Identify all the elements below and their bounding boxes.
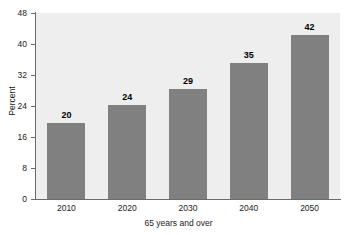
y-axis-tick bbox=[31, 75, 35, 76]
bars-container: 2024293542 bbox=[36, 13, 340, 199]
y-axis-tick-label: 8 bbox=[3, 163, 27, 173]
bar bbox=[291, 35, 329, 199]
bar-value-label: 24 bbox=[108, 92, 146, 102]
bar bbox=[169, 89, 207, 199]
y-axis-tick-label: 40 bbox=[3, 39, 27, 49]
y-axis-line bbox=[35, 12, 36, 200]
y-axis-tick bbox=[31, 44, 35, 45]
bar-chart: 2024293542 081624324048 Percent 20102020… bbox=[0, 0, 357, 235]
y-axis-tick bbox=[31, 137, 35, 138]
x-axis-title: 65 years and over bbox=[0, 218, 357, 228]
y-axis-tick-label: 48 bbox=[3, 8, 27, 18]
y-axis-tick bbox=[31, 199, 35, 200]
bar-value-label: 42 bbox=[291, 22, 329, 32]
x-axis-tick-label: 2040 bbox=[219, 203, 279, 213]
x-axis-tick-label: 2010 bbox=[36, 203, 96, 213]
x-axis-tick-label: 2030 bbox=[158, 203, 218, 213]
x-axis-tick-label: 2050 bbox=[280, 203, 340, 213]
bar-value-label: 29 bbox=[169, 76, 207, 86]
y-axis-tick bbox=[31, 13, 35, 14]
bar bbox=[230, 63, 268, 199]
x-axis-tick-label: 2020 bbox=[97, 203, 157, 213]
y-axis-tick bbox=[31, 106, 35, 107]
bar-value-label: 35 bbox=[230, 50, 268, 60]
y-axis-tick-label: 0 bbox=[3, 194, 27, 204]
bar bbox=[108, 105, 146, 199]
y-axis-title: Percent bbox=[7, 66, 17, 136]
y-axis-tick bbox=[31, 168, 35, 169]
bar-value-label: 20 bbox=[47, 110, 85, 120]
plot-area: 2024293542 bbox=[36, 13, 340, 199]
x-axis-line bbox=[35, 199, 341, 200]
bar bbox=[47, 123, 85, 199]
